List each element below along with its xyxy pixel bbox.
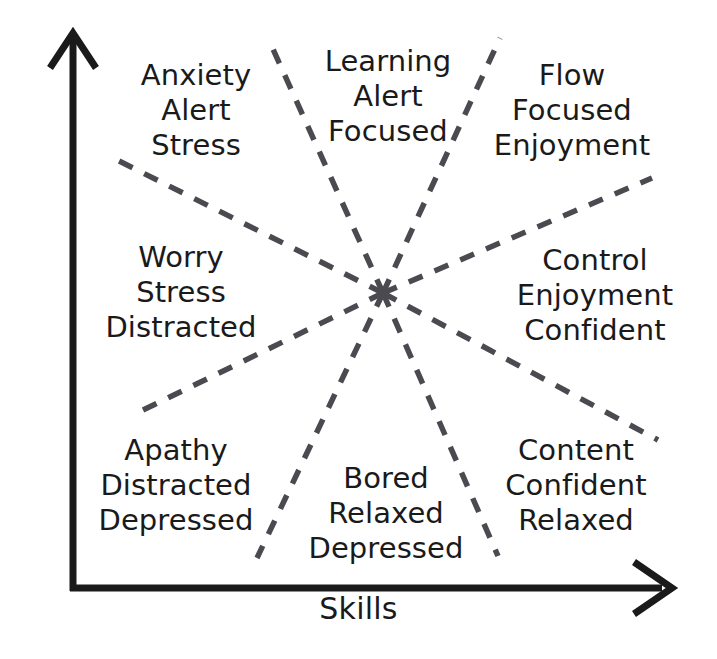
region-control-line-3: Confident bbox=[445, 313, 717, 348]
region-control-line-1: Control bbox=[445, 243, 717, 278]
region-worry-line-3: Distracted bbox=[31, 310, 331, 345]
region-content-line-3: Relaxed bbox=[426, 503, 717, 538]
region-flow-line-2: Focused bbox=[422, 93, 717, 128]
region-control: Control Enjoyment Confident bbox=[445, 243, 717, 348]
region-flow: Flow Focused Enjoyment bbox=[422, 58, 717, 163]
region-content-line-2: Confident bbox=[426, 468, 717, 503]
region-content: Content Confident Relaxed bbox=[426, 433, 717, 538]
region-control-line-2: Enjoyment bbox=[445, 278, 717, 313]
region-flow-line-1: Flow bbox=[422, 58, 717, 93]
region-flow-line-3: Enjoyment bbox=[422, 128, 717, 163]
flow-model-diagram: Skills Challenge Anxiety Alert Stress Le… bbox=[0, 0, 717, 659]
x-axis-label: Skills bbox=[0, 591, 717, 626]
region-content-line-1: Content bbox=[426, 433, 717, 468]
region-worry-line-1: Worry bbox=[31, 240, 331, 275]
region-worry: Worry Stress Distracted bbox=[31, 240, 331, 345]
region-worry-line-2: Stress bbox=[31, 275, 331, 310]
